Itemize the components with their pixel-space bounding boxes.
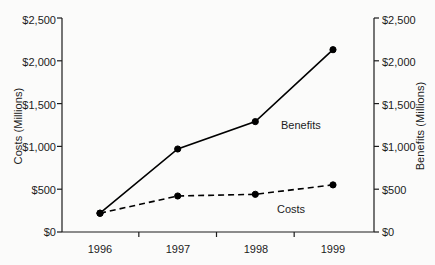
data-point-costs <box>252 191 258 197</box>
data-point-costs <box>97 210 103 216</box>
series-line-costs <box>100 185 333 213</box>
data-point-benefits <box>252 119 258 125</box>
axis-lines <box>62 18 374 232</box>
y-axis-left-ticks <box>57 18 62 232</box>
y-axis-right-ticks <box>374 18 379 232</box>
data-series <box>97 47 336 217</box>
data-point-costs <box>330 182 336 188</box>
line-chart: Costs (Millions) Benefits (Millions) $2,… <box>0 0 435 265</box>
plot-area <box>0 0 435 265</box>
x-axis-ticks <box>139 232 294 237</box>
data-point-costs <box>175 193 181 199</box>
data-point-benefits <box>175 146 181 152</box>
data-point-benefits <box>330 47 336 53</box>
